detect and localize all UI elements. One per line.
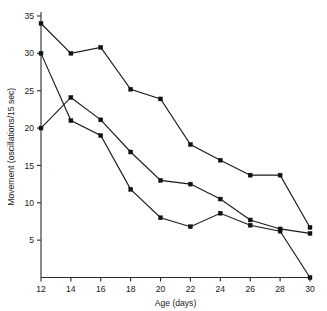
- data-point-marker: [248, 223, 252, 227]
- x-axis-title: Age (days): [155, 298, 197, 308]
- x-tick-label: 14: [66, 284, 76, 294]
- data-point-marker: [278, 173, 282, 177]
- x-tick-label: 26: [245, 284, 255, 294]
- data-point-marker: [248, 218, 252, 222]
- data-point-marker: [99, 134, 103, 138]
- y-tick-label: 5: [29, 235, 34, 245]
- data-point-marker: [99, 45, 103, 49]
- data-point-marker: [39, 21, 43, 25]
- data-point-marker: [129, 187, 133, 191]
- x-tick-label: 30: [305, 284, 315, 294]
- data-point-marker: [159, 216, 163, 220]
- data-point-marker: [159, 97, 163, 101]
- series-line-series-3: [41, 53, 310, 277]
- data-point-marker: [129, 150, 133, 154]
- y-tick-label: 20: [24, 123, 34, 133]
- y-tick-label: 15: [24, 161, 34, 171]
- data-point-marker: [99, 118, 103, 122]
- x-tick-label: 20: [156, 284, 166, 294]
- data-point-marker: [218, 211, 222, 215]
- data-point-marker: [308, 276, 312, 280]
- data-point-marker: [248, 173, 252, 177]
- y-tick-label: 35: [24, 11, 34, 21]
- data-point-marker: [69, 95, 73, 99]
- data-point-marker: [188, 182, 192, 186]
- data-point-marker: [218, 158, 222, 162]
- data-point-marker: [129, 87, 133, 91]
- x-tick-label: 18: [126, 284, 136, 294]
- line-chart: 510152025303512141618202224262830Age (da…: [0, 0, 327, 311]
- y-tick-label: 10: [24, 198, 34, 208]
- data-point-marker: [159, 178, 163, 182]
- data-point-marker: [188, 143, 192, 147]
- series-line-series-2: [41, 97, 310, 233]
- data-point-marker: [278, 229, 282, 233]
- y-axis-title: Movement (oscillations/15 sec): [6, 88, 16, 206]
- data-point-marker: [218, 197, 222, 201]
- x-tick-label: 16: [96, 284, 106, 294]
- data-point-marker: [69, 119, 73, 123]
- data-point-marker: [188, 225, 192, 229]
- data-point-marker: [308, 231, 312, 235]
- x-tick-label: 22: [186, 284, 196, 294]
- data-point-marker: [39, 51, 43, 55]
- y-tick-label: 25: [24, 86, 34, 96]
- data-point-marker: [69, 51, 73, 55]
- x-tick-label: 12: [36, 284, 46, 294]
- chart-container: 510152025303512141618202224262830Age (da…: [0, 0, 327, 311]
- y-tick-label: 30: [24, 48, 34, 58]
- x-tick-label: 24: [216, 284, 226, 294]
- data-point-marker: [308, 225, 312, 229]
- x-tick-label: 28: [275, 284, 285, 294]
- data-point-marker: [39, 126, 43, 130]
